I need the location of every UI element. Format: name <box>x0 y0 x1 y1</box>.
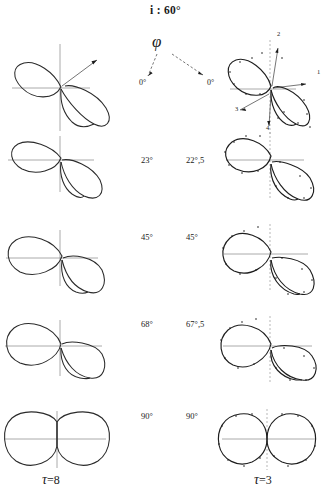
numbered-arrow-2 <box>272 48 278 86</box>
phi-label-left: 0° <box>139 78 146 87</box>
lobe-curve <box>228 59 271 95</box>
polar-panel-right-5 <box>218 409 316 470</box>
lobe-curve <box>12 142 61 172</box>
phi-arrow-left <box>148 54 157 76</box>
arrow-label-2: 2 <box>277 30 280 37</box>
phi-label-right: 0° <box>207 78 214 87</box>
lobe-curve <box>271 350 302 380</box>
lobe-curve <box>226 139 271 172</box>
row-label-left-4: 68° <box>141 319 153 329</box>
tau-value-left: =8 <box>47 473 60 487</box>
polar-panel-left-1 <box>12 44 109 131</box>
lobe-curve <box>271 346 316 381</box>
polar-panel-right-3 <box>222 224 314 295</box>
lobe-curve <box>271 257 314 294</box>
arrow-label-3: 3 <box>235 105 238 112</box>
lobe-curve <box>61 160 102 198</box>
lobe-curve <box>5 412 57 465</box>
row-label-left-5: 90° <box>141 411 153 421</box>
lobe-curve <box>271 164 298 200</box>
row-label-left-2: 23° <box>141 155 153 165</box>
phi-arrow-right <box>172 54 203 75</box>
row-label-right-4: 67°,5 <box>186 319 204 329</box>
lobe-curve <box>61 348 90 379</box>
polar-panel-right-2 <box>224 132 313 200</box>
row-label-left-3: 45° <box>141 232 153 242</box>
row-label-right-3: 45° <box>186 232 198 242</box>
incidence-arrow <box>62 60 97 86</box>
numbered-arrow-4 <box>267 94 271 126</box>
lobe-curve <box>8 237 62 275</box>
phi-symbol: φ <box>152 32 161 52</box>
lobe-curve <box>271 162 314 201</box>
row-label-right-2: 22°,5 <box>186 155 204 165</box>
polar-panel-right-4 <box>220 316 316 382</box>
row-label-right-5: 90° <box>186 411 198 421</box>
right-column-panels <box>222 26 331 466</box>
polar-panel-right-1 <box>228 40 311 134</box>
lobe-curve <box>7 324 61 365</box>
caption-tau-right: τ=3 <box>254 472 272 488</box>
lobe-curve <box>61 162 84 197</box>
polar-panel-left-2 <box>8 136 102 198</box>
polar-panel-left-3 <box>6 230 104 293</box>
lobe-curve <box>15 63 61 97</box>
left-column-panels <box>2 26 132 466</box>
figure-canvas: i : 60° φ 0° 0° <box>0 0 331 503</box>
data-markers <box>224 135 312 199</box>
lobe-curve <box>61 342 105 378</box>
lobe-curve <box>61 86 109 126</box>
lobe-curve <box>271 90 296 126</box>
data-markers <box>220 318 315 381</box>
lobe-curve <box>271 87 310 126</box>
lobe-curve <box>57 412 109 465</box>
lobe-curve <box>223 234 271 273</box>
arrow-label-1: 1 <box>317 68 320 75</box>
polar-panel-left-5 <box>5 411 110 468</box>
numbered-arrow-3 <box>240 94 269 111</box>
figure-title: i : 60° <box>0 4 331 16</box>
lobe-curve <box>62 260 88 293</box>
lobe-curve <box>271 260 300 294</box>
polar-panel-left-4 <box>5 320 105 379</box>
caption-tau-left: τ=8 <box>42 472 60 488</box>
tau-value-right: =3 <box>259 473 272 487</box>
numbered-arrow-1 <box>273 83 306 88</box>
arrow-label-4: 4 <box>266 124 269 131</box>
